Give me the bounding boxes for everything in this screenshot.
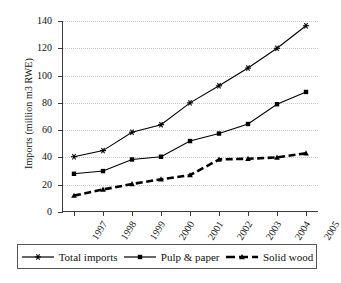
y-axis-tick-label: 120 [22, 41, 52, 54]
data-point [188, 139, 192, 143]
y-axis-tick: 0 [58, 212, 63, 213]
legend-label: Total imports [59, 251, 118, 263]
x-axis-tick-label: 2001 [205, 219, 225, 242]
legend-label: Pulp & paper [161, 251, 220, 263]
y-axis-tick-label: 20 [22, 178, 52, 191]
series-line [74, 92, 306, 174]
x-axis-tick-label: 2002 [234, 219, 254, 242]
data-point [130, 157, 134, 161]
legend-marker-square-icon [123, 251, 157, 263]
series-3 [71, 150, 309, 197]
y-axis-tick-label: 40 [22, 150, 52, 163]
x-axis-tick-label: 2005 [321, 219, 341, 242]
y-axis-tick-label: 60 [22, 123, 52, 136]
data-point [101, 169, 105, 173]
x-axis-tick-label: 1998 [118, 219, 138, 242]
data-point [217, 131, 221, 135]
x-axis-tick-label: 1999 [147, 219, 167, 242]
x-axis-tick-label: 2000 [176, 219, 196, 242]
legend-marker-star-icon [21, 251, 55, 263]
legend-label: Solid wood [263, 251, 313, 263]
legend-marker-triangle-icon [225, 251, 259, 263]
y-axis-tick-label: 140 [22, 14, 52, 27]
plot-area: 020406080100120140 199719981999200020012… [62, 21, 318, 212]
legend: Total importsPulp & paperSolid wood [17, 244, 317, 269]
y-axis-tick-label: 80 [22, 96, 52, 109]
x-axis-tick-label: 2004 [292, 219, 312, 242]
legend-entry[interactable]: Pulp & paper [123, 251, 220, 263]
x-axis-tick-label: 1997 [89, 219, 109, 242]
x-axis-tick-label: 2003 [263, 219, 283, 242]
y-axis-tick-label: 0 [22, 205, 52, 218]
data-point [246, 122, 250, 126]
data-point [71, 154, 77, 159]
series-line [74, 26, 306, 157]
data-point [275, 102, 279, 106]
y-axis-tick-label: 100 [22, 69, 52, 82]
legend-entry[interactable]: Total imports [21, 251, 118, 263]
data-point [304, 90, 308, 94]
data-point [72, 172, 76, 176]
series-layer [62, 21, 318, 212]
legend-entry[interactable]: Solid wood [225, 251, 313, 263]
data-point [159, 155, 163, 159]
